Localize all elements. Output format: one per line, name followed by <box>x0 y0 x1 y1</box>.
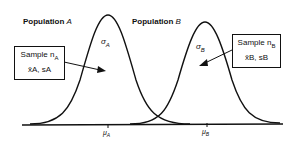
sample-b-stats: x̄B, sB <box>233 52 280 63</box>
mu-b-label: μB <box>202 128 209 137</box>
population-b-label: Population B <box>132 17 181 26</box>
population-a-label: Population A <box>23 17 72 26</box>
mu-a-label: μA <box>103 129 110 138</box>
sample-a-stats: x̄A, sA <box>15 64 64 75</box>
sample-a-size: Sample nA <box>15 49 64 64</box>
sample-b-size: Sample nB <box>233 37 280 52</box>
sample-b-box: Sample nB x̄B, sB <box>232 34 281 68</box>
sample-a-box: Sample nA x̄A, sA <box>14 46 65 80</box>
sigma-b-label: σB <box>196 42 205 53</box>
diagram-canvas: Population A Population B σA σB Sample n… <box>0 0 295 146</box>
sigma-a-label: σA <box>101 37 110 48</box>
